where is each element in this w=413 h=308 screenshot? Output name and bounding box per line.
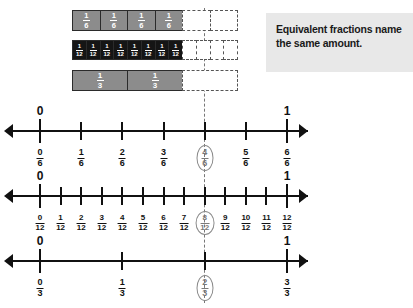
axis-tick (142, 187, 144, 205)
fraction-bar-twelfths: 112112112112112112112112 (72, 40, 238, 60)
fraction-glyph: 46 (201, 148, 208, 168)
fraction-numerator: 4 (202, 148, 207, 157)
fraction-denominator: 3 (202, 289, 207, 298)
fraction-glyph: 16 (83, 12, 90, 29)
axis-line (12, 130, 308, 132)
tick-label: 16 (78, 141, 85, 168)
tick-label: 03 (37, 271, 44, 298)
axis-tick (121, 187, 123, 205)
tick-label: 56 (242, 141, 249, 168)
fraction-numerator: 5 (141, 214, 145, 222)
fraction-glyph: 33 (284, 278, 291, 298)
bar-cell-filled: 16 (127, 10, 156, 31)
tick-label: 33 (284, 271, 291, 298)
fraction-denominator: 6 (243, 159, 248, 168)
fraction-denominator: 12 (104, 51, 111, 57)
callout-line-1: Equivalent fractions name (276, 22, 407, 36)
fraction-glyph: 112 (131, 43, 138, 57)
fraction-glyph: 1212 (283, 214, 292, 232)
fraction-glyph: 23 (201, 278, 208, 298)
fraction-glyph: 16 (110, 12, 117, 29)
axis-tick (121, 252, 123, 270)
axis-tick (286, 249, 288, 273)
fraction-numerator: 1 (112, 12, 116, 20)
bar-cell-filled: 16 (72, 10, 101, 31)
bar-cell-filled: 13 (72, 70, 128, 91)
number-line-twelfths: 0012112212312412512612712812912101211121… (0, 173, 413, 233)
axis-tick (101, 187, 103, 205)
fraction-glyph: 13 (97, 72, 104, 90)
axis-tick (39, 249, 41, 273)
fraction-numerator: 3 (161, 148, 166, 157)
fraction-glyph: 1112 (262, 214, 271, 232)
axis-tick (204, 187, 206, 205)
fraction-denominator: 3 (120, 289, 125, 298)
fraction-glyph: 26 (119, 148, 126, 168)
bar-cell-empty (210, 40, 225, 60)
fraction-denominator: 12 (262, 224, 271, 232)
fraction-numerator: 1 (98, 72, 102, 80)
axis-tick (224, 187, 226, 205)
fraction-numerator: 4 (120, 214, 124, 222)
fraction-numerator: 1 (133, 43, 136, 49)
bar-cell-filled: 112 (141, 40, 156, 60)
bar-cell-filled: 112 (113, 40, 128, 60)
fraction-denominator: 12 (131, 51, 138, 57)
fraction-denominator: 12 (138, 224, 147, 232)
fraction-denominator: 6 (167, 22, 171, 30)
fraction-glyph: 112 (103, 43, 110, 57)
fraction-denominator: 3 (98, 82, 102, 90)
fraction-denominator: 12 (90, 51, 97, 57)
fraction-numerator: 1 (78, 43, 81, 49)
fraction-numerator: 6 (284, 148, 289, 157)
fraction-numerator: 3 (284, 278, 289, 287)
tick-label: 13 (119, 271, 126, 298)
number-line-thirds: 0031323133 (0, 238, 413, 298)
axis-arrow-left-icon (4, 124, 13, 138)
fraction-denominator: 6 (284, 159, 289, 168)
fraction-denominator: 12 (118, 224, 127, 232)
axis-tick (80, 187, 82, 205)
endpoint-label-zero: 0 (37, 104, 44, 118)
tick-label: 712 (180, 206, 189, 232)
fraction-numerator: 1 (79, 148, 84, 157)
fraction-denominator: 6 (139, 22, 143, 30)
highlight-circle: 812 (195, 211, 214, 235)
fraction-glyph: 212 (77, 214, 86, 232)
bar-cell-filled: 112 (155, 40, 170, 60)
tick-label: 1012 (241, 206, 250, 232)
bar-cell-filled: 112 (86, 40, 101, 60)
bar-cell-empty (223, 40, 238, 60)
axis-tick (245, 187, 247, 205)
axis-tick (286, 184, 288, 208)
fraction-glyph: 03 (37, 278, 44, 298)
axis-tick (39, 119, 41, 143)
axis-arrow-right-icon (299, 124, 308, 138)
fraction-denominator: 3 (284, 289, 289, 298)
fraction-denominator: 6 (79, 159, 84, 168)
fraction-denominator: 6 (112, 22, 116, 30)
bar-cell-empty (182, 10, 211, 31)
fraction-numerator: 1 (174, 43, 177, 49)
callout-box: Equivalent fractions name the same amoun… (266, 13, 413, 72)
fraction-denominator: 6 (84, 22, 88, 30)
fraction-glyph: 312 (97, 214, 106, 232)
fraction-denominator: 12 (172, 51, 179, 57)
tick-label: 612 (159, 206, 168, 232)
highlight-circle: 46 (196, 145, 213, 171)
tick-label-highlighted: 46 (196, 141, 213, 171)
fraction-denominator: 12 (36, 224, 45, 232)
tick-label: 1112 (262, 206, 271, 232)
fraction-glyph: 612 (159, 214, 168, 232)
fraction-glyph: 112 (90, 43, 97, 57)
axis-arrow-left-icon (4, 189, 13, 203)
fraction-numerator: 0 (38, 214, 42, 222)
axis-tick (163, 187, 165, 205)
fraction-denominator: 12 (77, 224, 86, 232)
bar-cell-filled: 13 (127, 70, 183, 91)
axis-arrow-right-icon (299, 189, 308, 203)
axis-line (12, 195, 308, 197)
bar-cell-empty (210, 10, 239, 31)
fraction-glyph: 13 (152, 72, 159, 90)
endpoint-label-zero: 0 (37, 169, 44, 183)
